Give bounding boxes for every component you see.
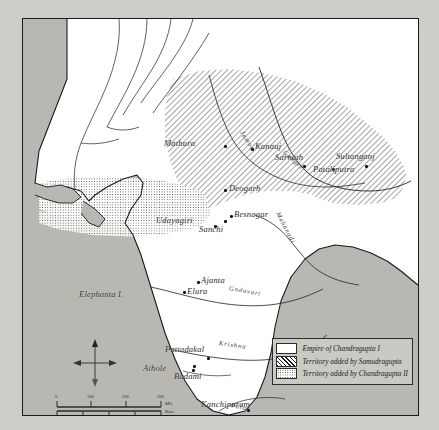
legend-swatch-dot [276, 368, 297, 379]
map-frame: Mathura Kanauj Sarnath Sultanganj Patali… [22, 18, 419, 416]
city-dot-mathura [224, 145, 227, 148]
city-label-sultanganj: Sultanganj [336, 151, 375, 161]
city-label-deogarh: Deogarh [229, 183, 260, 193]
legend-swatch-hatch [276, 356, 297, 367]
city-label-besnagar: Besnagar [234, 209, 268, 219]
scale-unit-kms: Kms [165, 409, 174, 414]
city-label-ajanta: Ajanta [201, 275, 225, 285]
compass-rose [71, 337, 119, 389]
legend-label-chandragupta-i: Empire of Chandragupta I [302, 344, 379, 353]
city-label-badami: Badami [174, 371, 202, 381]
city-dot-udayagiri [224, 220, 227, 223]
city-label-sanchi: Sanchi [199, 224, 223, 234]
legend-row-samudragupta: Territory added by Samudragupta [276, 356, 408, 367]
city-label-pattadakal: Pattadakal [165, 344, 204, 354]
legend-label-samudragupta: Territory added by Samudragupta [302, 357, 401, 366]
city-dot-elura [183, 291, 186, 294]
city-dot-ajanta [197, 281, 200, 284]
city-label-udayagiri: Udayagiri [156, 215, 193, 225]
city-dot-sultanganj [365, 165, 368, 168]
city-dot-pattadakal [207, 357, 210, 360]
scale-miles-tick-0: 0 [55, 394, 57, 399]
scale-unit-miles: Mls [165, 401, 173, 406]
city-label-mathura: Mathura [164, 138, 195, 148]
legend-label-chandragupta-ii: Territory added by Chandragupta II [302, 369, 408, 378]
legend-swatch-plain [276, 343, 297, 354]
city-label-pataliputra: Pataliputra [313, 164, 354, 174]
scale-miles-tick-3: 300 [157, 394, 164, 399]
city-dot-besnagar [230, 215, 233, 218]
city-label-aihole: Aihole [143, 363, 166, 373]
scale-miles-tick-2: 200 [122, 394, 129, 399]
city-label-elura: Elura [187, 286, 207, 296]
legend-row-chandragupta-i: Empire of Chandragupta I [276, 343, 408, 354]
legend-row-chandragupta-ii: Territory added by Chandragupta II [276, 368, 408, 379]
scale-miles-tick-1: 100 [87, 394, 94, 399]
place-label-elephanta: Elephanta I. [79, 289, 123, 299]
city-label-kanauj: Kanauj [255, 141, 281, 151]
city-dot-aihole [193, 365, 196, 368]
scale-bar [53, 396, 173, 416]
map-legend: Empire of Chandragupta I Territory added… [272, 338, 413, 385]
city-dot-deogarh [224, 189, 227, 192]
